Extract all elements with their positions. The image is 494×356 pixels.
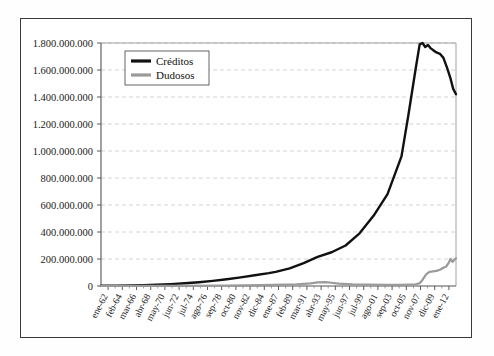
y-axis-tick-label: 1.800.000.000	[33, 38, 93, 49]
y-axis-tick-label: 600.000.000	[41, 200, 94, 211]
legend-label-dudosos: Dudosos	[156, 69, 195, 81]
figure-container: 1.800.000.0001.600.000.0001.400.000.0001…	[0, 0, 494, 356]
y-axis-tick-label: 800.000.000	[41, 173, 94, 184]
y-axis-tick-label: 1.600.000.000	[33, 65, 93, 76]
y-axis-tick-label: 1.400.000.000	[33, 92, 93, 103]
chart-outer-frame: 1.800.000.0001.600.000.0001.400.000.0001…	[20, 18, 472, 338]
y-axis-tick-label: 400.000.000	[41, 227, 94, 238]
y-axis-tick-label: 200.000.000	[41, 254, 94, 265]
y-axis-tick-labels: 1.800.000.0001.600.000.0001.400.000.0001…	[33, 38, 93, 292]
y-axis-tick-label: 0	[88, 281, 93, 292]
y-axis-ticks	[97, 43, 101, 286]
y-axis-tick-label: 1.000.000.000	[33, 146, 93, 157]
x-axis-tick-labels: ene-62feb-64mar-66abr-68may-70jun-72jul-…	[89, 292, 451, 323]
legend-label-crditos: Créditos	[156, 55, 193, 67]
y-axis-tick-label: 1.200.000.000	[33, 119, 93, 130]
chart-legend: CréditosDudosos	[125, 51, 209, 85]
line-chart: 1.800.000.0001.600.000.0001.400.000.0001…	[21, 19, 470, 336]
